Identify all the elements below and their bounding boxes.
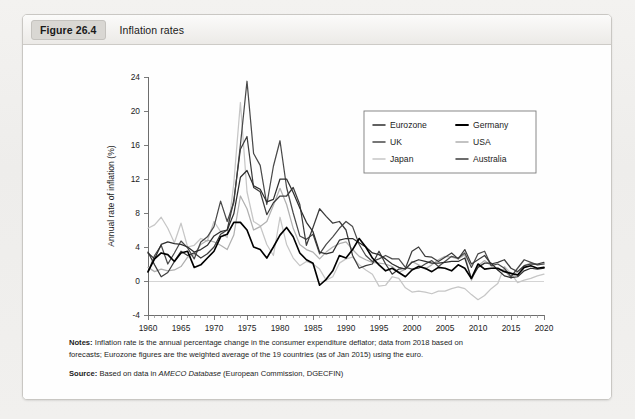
x-axis-tick-label: 1995 [370, 323, 389, 333]
source-text-pre: Based on data in [99, 369, 158, 378]
y-axis-title: Annual rate of inflation (%) [106, 145, 116, 246]
inflation-line-chart: -404812162024196019651970197519801985199… [23, 45, 611, 335]
figure-number-badge: Figure 26.4 [31, 20, 106, 40]
chart-area: -404812162024196019651970197519801985199… [23, 45, 611, 335]
y-axis-tick-label: 12 [131, 174, 141, 184]
legend-label-usa: USA [473, 137, 491, 147]
legend-label-germany: Germany [473, 120, 509, 130]
x-axis-tick-label: 1990 [337, 323, 356, 333]
legend-label-uk: UK [390, 137, 402, 147]
series-line-eurozone [148, 171, 544, 279]
source-text-post: (European Commission, DGECFIN) [221, 369, 343, 378]
y-axis-tick-label: 24 [131, 72, 141, 82]
y-axis-tick-label: -4 [133, 310, 141, 320]
legend-label-australia: Australia [473, 154, 507, 164]
x-axis-tick-label: 2010 [469, 323, 488, 333]
source-database-name: AMECO Database [159, 369, 221, 378]
y-axis-tick-label: 0 [135, 276, 140, 286]
figure-container: Figure 26.4 Inflation rates -40481216202… [22, 14, 612, 400]
x-axis-tick-label: 1985 [304, 323, 323, 333]
notes-block: Notes: Inflation rate is the annual perc… [69, 337, 595, 361]
x-axis-tick-label: 2020 [535, 323, 554, 333]
x-axis-tick-label: 1975 [238, 323, 257, 333]
y-axis-tick-label: 20 [131, 106, 141, 116]
notes-line-1: Inflation rate is the annual percentage … [95, 338, 463, 347]
notes-line-2: forecasts; Eurozone figures are the weig… [69, 350, 423, 359]
x-axis-tick-label: 1980 [271, 323, 290, 333]
y-axis-tick-label: 4 [135, 242, 140, 252]
y-axis-tick-label: 8 [135, 208, 140, 218]
figure-title: Inflation rates [120, 24, 185, 36]
x-axis-tick-label: 1960 [139, 323, 158, 333]
y-axis-tick-label: 16 [131, 140, 141, 150]
source-label: Source: [69, 369, 97, 378]
figure-body: -404812162024196019651970197519801985199… [23, 45, 611, 399]
legend-label-japan: Japan [390, 154, 414, 164]
x-axis-tick-label: 1970 [205, 323, 224, 333]
notes-label: Notes: [69, 338, 93, 347]
x-axis-tick-label: 2015 [502, 323, 521, 333]
legend-label-eurozone: Eurozone [390, 120, 427, 130]
series-line-usa [148, 188, 544, 280]
source-block: Source: Based on data in AMECO Database … [69, 368, 595, 380]
figure-header: Figure 26.4 Inflation rates [23, 15, 611, 45]
x-axis-tick-label: 2005 [436, 323, 455, 333]
x-axis-tick-label: 1965 [172, 323, 191, 333]
figure-notes: Notes: Inflation rate is the annual perc… [69, 337, 595, 386]
x-axis-tick-label: 2000 [403, 323, 422, 333]
